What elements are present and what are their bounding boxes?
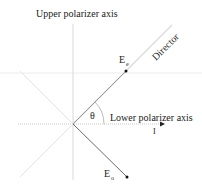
theta-label: θ	[90, 110, 95, 121]
svg-text:E: E	[119, 54, 125, 65]
left-lower-diagonal	[20, 124, 73, 177]
lower-polarizer-axis-label: Lower polarizer axis	[110, 112, 193, 123]
svg-text:e: e	[126, 61, 129, 67]
left-upper-diagonal	[20, 71, 73, 124]
svg-text:E: E	[104, 168, 110, 179]
eo-vector-tip	[126, 176, 129, 179]
theta-arc	[95, 102, 104, 124]
upper-polarizer-axis-label: Upper polarizer axis	[36, 8, 118, 19]
eo-vector	[73, 124, 126, 176]
eo-label: E o	[104, 168, 114, 181]
ee-label: E e	[119, 54, 129, 67]
director-label: Director	[150, 31, 182, 63]
polarizer-diagram: Upper polarizer axis Lower polarizer axi…	[0, 0, 202, 188]
intensity-marker-label: I	[153, 127, 156, 136]
svg-text:o: o	[111, 175, 114, 181]
ee-vector-tip	[125, 70, 128, 73]
